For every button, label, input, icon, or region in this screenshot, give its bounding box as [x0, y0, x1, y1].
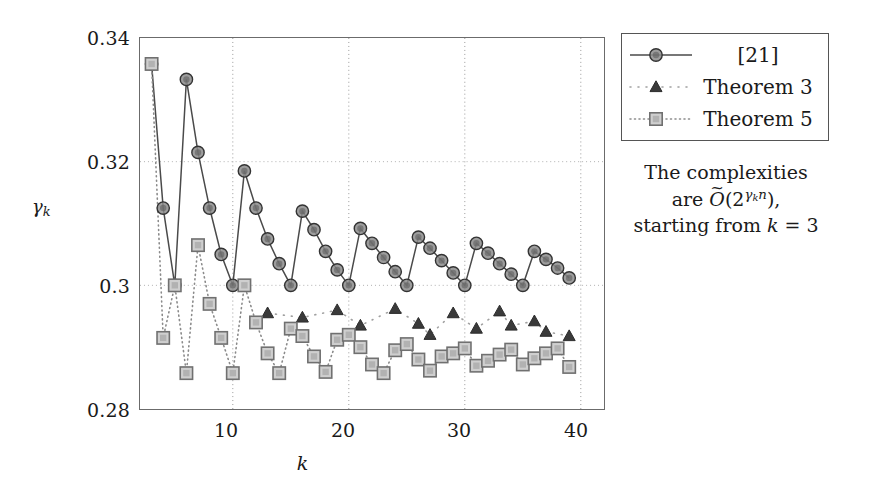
y-tick-0.28: 0.28	[87, 399, 130, 421]
legend-item-0: [21]	[622, 40, 830, 70]
x-axis-tick-labels: 10 20 30 40	[0, 419, 880, 449]
y-tick-0.34: 0.34	[87, 27, 130, 49]
y-tick-0.3: 0.3	[99, 275, 130, 297]
plot-area	[139, 37, 605, 410]
big-o-tilde-symbol: ~O	[709, 187, 725, 213]
y-axis-tick-labels: 0.34 0.32 0.3 0.28	[48, 0, 130, 490]
legend-sample-line-circle	[622, 40, 700, 70]
caption-line-3: starting from k = 3	[612, 213, 840, 239]
y-axis-label-symbol: γ	[32, 196, 43, 217]
data-series-layer	[140, 38, 604, 409]
x-tick-40: 40	[564, 419, 588, 441]
x-tick-30: 30	[447, 419, 471, 441]
y-axis-label-subscript: k	[43, 204, 51, 219]
legend-item-2: Theorem 5	[622, 104, 830, 134]
caption-exponent: γkn	[744, 187, 767, 202]
caption-close: ),	[767, 188, 780, 210]
legend: [21] Theorem 3 Theorem 5	[621, 33, 829, 141]
caption-line-1: The complexities	[612, 160, 840, 186]
caption-open: (2	[725, 188, 745, 210]
x-axis-label: k	[0, 452, 605, 474]
legend-label-1: Theorem 3	[700, 75, 830, 99]
caption-k-eq: = 3	[778, 214, 818, 236]
y-axis-label: γk	[32, 196, 51, 219]
x-tick-20: 20	[331, 419, 355, 441]
caption-are: are	[672, 188, 710, 210]
legend-item-1: Theorem 3	[622, 72, 830, 102]
chart-figure: 0.34 0.32 0.3 0.28 γk 10 20 30 40 k [21]…	[0, 0, 880, 490]
legend-label-2: Theorem 5	[700, 107, 830, 131]
caption-k-var: k	[767, 214, 779, 236]
figure-caption: The complexities are ~O(2γkn), starting …	[612, 160, 840, 238]
y-tick-0.32: 0.32	[87, 151, 130, 173]
legend-sample-line-triangle	[622, 72, 700, 102]
x-tick-10: 10	[214, 419, 238, 441]
caption-starting: starting from	[633, 214, 767, 236]
caption-line-2: are ~O(2γkn),	[612, 186, 840, 213]
legend-sample-line-square	[622, 104, 700, 134]
legend-label-0: [21]	[700, 43, 830, 67]
